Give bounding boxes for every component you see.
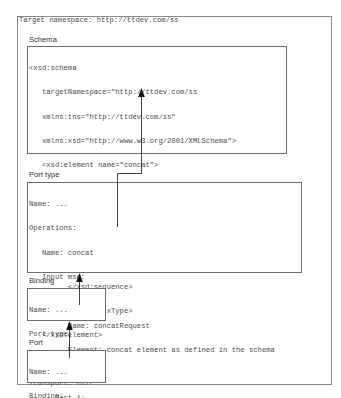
port-line: Name: ...: [29, 368, 85, 376]
port-type-line: Name: ...: [29, 200, 275, 208]
port-type-line: Operations:: [29, 224, 275, 232]
port-type-box: Name: ... Operations: Name: concat Input…: [27, 182, 302, 273]
port-type-line: Input msg:: [29, 273, 275, 281]
port-type-line: Name: concat: [29, 249, 275, 257]
port-box: Name: ... Binding: Endpoint: ...: [27, 350, 106, 383]
schema-box: <xsd:schema targetNamespace="http://ttde…: [27, 46, 287, 154]
port-type-title: Port type: [29, 170, 59, 179]
port-line: Binding:: [29, 392, 85, 398]
binding-box: Name: ... Port type: Format: SOAP Transp…: [27, 288, 106, 321]
schema-line: xmlns:tns="http://ttdev.com/ss": [29, 113, 262, 121]
schema-line: xmlns:xsd="http://www.w3.org/2001/XMLSch…: [29, 137, 262, 145]
port-title: Port: [29, 338, 43, 347]
binding-line: Name: ...: [29, 306, 94, 314]
schema-line: targetNamespace="http://ttdev.com/ss: [29, 88, 262, 96]
port-code: Name: ... Binding: Endpoint: ...: [29, 352, 85, 398]
schema-line: <xsd:element name="concat">: [29, 161, 262, 169]
schema-title: Schema: [29, 35, 57, 44]
schema-line: <xsd:schema: [29, 64, 262, 72]
binding-title: Binding: [29, 276, 54, 285]
target-namespace-label: Target namespace: http://ttdev.com/ss: [19, 16, 179, 24]
